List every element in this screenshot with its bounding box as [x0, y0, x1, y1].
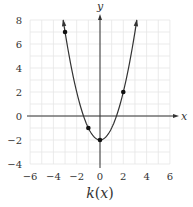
x-tick-label: −6	[23, 171, 38, 182]
data-point	[86, 126, 91, 131]
chart-caption: k(x)	[86, 185, 113, 201]
x-tick-label: −4	[46, 171, 61, 182]
data-point	[121, 90, 126, 95]
caption-x: x	[100, 185, 108, 201]
y-tick-label: 2	[16, 87, 22, 98]
x-axis-label: x	[181, 110, 188, 123]
y-tick-label: −4	[7, 159, 22, 170]
caption-close: )	[108, 185, 113, 201]
y-tick-label: 8	[16, 15, 22, 26]
axes	[27, 14, 179, 168]
y-tick-label: −2	[7, 135, 22, 146]
x-axis-arrow-icon	[173, 114, 179, 118]
data-point	[63, 30, 68, 35]
x-tick-label: 4	[143, 171, 149, 182]
x-tick-label: −2	[69, 171, 84, 182]
y-tick-label: 4	[16, 63, 22, 74]
tick-labels: −6−4−20246−4−202468	[7, 15, 173, 183]
data-point	[98, 138, 103, 143]
caption-k: k	[86, 185, 94, 201]
data-points	[63, 30, 126, 143]
x-tick-label: 6	[167, 171, 173, 182]
y-tick-label: 6	[16, 39, 22, 50]
y-axis-label: y	[96, 0, 104, 13]
y-axis-arrow-icon	[98, 14, 102, 20]
x-tick-label: 0	[97, 171, 103, 182]
x-tick-label: 2	[120, 171, 126, 182]
y-tick-label: 0	[16, 111, 22, 122]
quadratic-chart: −6−4−20246−4−202468 x y k(x)	[0, 0, 193, 207]
